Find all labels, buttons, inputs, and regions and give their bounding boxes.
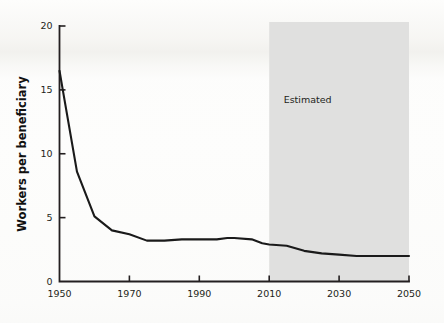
x-tick-label: 1970 <box>117 288 141 299</box>
y-tick-label: 5 <box>46 212 52 223</box>
x-tick-label: 2050 <box>397 288 421 299</box>
x-tick-label: 2010 <box>257 288 281 299</box>
y-tick-label: 20 <box>40 20 52 31</box>
workers-per-beneficiary-line-chart: Estimated 05101520 195019701990201020302… <box>0 0 444 323</box>
x-tick-label: 1950 <box>47 288 71 299</box>
y-tick-label: 15 <box>40 84 52 95</box>
y-axis-label: Workers per beneficiary <box>15 76 29 232</box>
y-axis-ticks: 05101520 <box>40 20 65 287</box>
estimated-shaded-region <box>269 22 409 282</box>
x-tick-label: 2030 <box>327 288 351 299</box>
estimated-region-label: Estimated <box>284 94 332 105</box>
y-tick-label: 0 <box>46 276 52 287</box>
y-tick-label: 10 <box>40 148 52 159</box>
x-tick-label: 1990 <box>187 288 211 299</box>
chart-page: Estimated 05101520 195019701990201020302… <box>0 0 444 323</box>
